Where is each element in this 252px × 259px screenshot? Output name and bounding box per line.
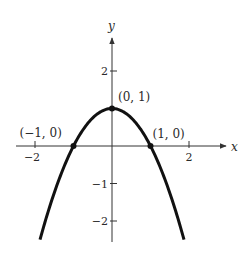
point-label: (−1, 0) xyxy=(20,126,62,140)
point-marker xyxy=(109,106,115,112)
y-tick-label: −1 xyxy=(92,178,108,191)
x-tick-label: −2 xyxy=(24,151,40,164)
y-tick-label: −2 xyxy=(92,215,108,228)
point-label: (0, 1) xyxy=(118,90,150,104)
y-axis-label: y xyxy=(107,19,115,33)
point-marker xyxy=(148,143,154,149)
point-label: (1, 0) xyxy=(153,127,185,141)
labeled-points: (−1, 0)(0, 1)(1, 0) xyxy=(20,90,185,150)
point-marker xyxy=(71,143,77,149)
y-tick-label: 2 xyxy=(101,65,108,78)
parabola-chart: x y −222−1−2 (−1, 0)(0, 1)(1, 0) xyxy=(0,0,252,259)
x-tick-label: 2 xyxy=(186,151,193,164)
x-axis-label: x xyxy=(231,140,238,154)
